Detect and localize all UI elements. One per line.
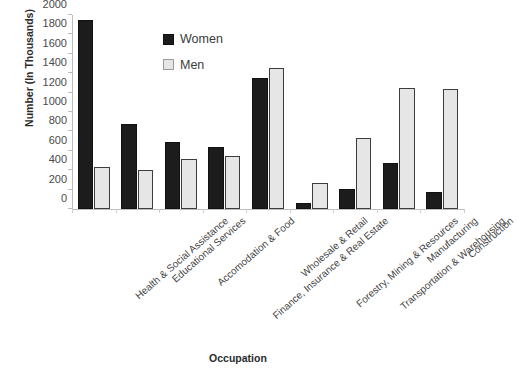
y-tick-label: 1600 <box>43 37 67 48</box>
y-tick-label: 1200 <box>43 76 67 87</box>
x-tick-mark <box>420 209 421 213</box>
x-tick-mark <box>246 209 247 213</box>
legend-swatch-men-icon <box>163 59 174 70</box>
y-tick-mark <box>68 130 72 131</box>
bar-men[interactable] <box>225 156 241 209</box>
x-tick-mark <box>464 209 465 213</box>
bar-men[interactable] <box>181 159 197 209</box>
x-tick-mark <box>290 209 291 213</box>
legend-item-women[interactable]: Women <box>163 33 223 46</box>
x-category-label: Health & Social Assistance <box>133 215 230 301</box>
bar-women[interactable] <box>339 189 355 209</box>
legend: Women Men <box>163 33 223 84</box>
x-axis-title: Occupation <box>0 352 476 364</box>
bar-men[interactable] <box>356 138 372 209</box>
y-tick-mark <box>68 150 72 151</box>
y-tick-mark <box>68 72 72 73</box>
x-tick-mark <box>333 209 334 213</box>
x-tick-mark <box>159 209 160 213</box>
y-tick-label: 2000 <box>43 0 67 10</box>
y-axis-title: Number (In Thousands) <box>23 0 35 153</box>
chart-title <box>20 0 460 5</box>
y-tick-mark <box>68 33 72 34</box>
bar-women[interactable] <box>208 147 224 209</box>
bar-women[interactable] <box>252 78 268 209</box>
y-tick-label: 1800 <box>43 18 67 29</box>
y-tick-mark <box>68 111 72 112</box>
bar-men[interactable] <box>312 183 328 209</box>
legend-item-men[interactable]: Men <box>163 59 223 72</box>
bar-women[interactable] <box>78 20 94 209</box>
x-tick-mark <box>72 209 73 213</box>
y-tick-mark <box>68 92 72 93</box>
bar-women[interactable] <box>426 192 442 209</box>
bar-women[interactable] <box>121 124 137 209</box>
plot-area: 0200400600800100012001400160018002000 <box>72 15 464 209</box>
legend-swatch-women-icon <box>163 34 174 45</box>
y-tick-label: 600 <box>49 134 67 145</box>
y-tick-label: 400 <box>49 154 67 165</box>
x-tick-mark <box>203 209 204 213</box>
y-tick-label: 1400 <box>43 57 67 68</box>
bar-women[interactable] <box>383 163 399 209</box>
y-tick-mark <box>68 169 72 170</box>
bar-men[interactable] <box>399 88 415 209</box>
y-tick-label: 800 <box>49 115 67 126</box>
x-category-label: Finance, Insurance & Real Estate <box>271 215 391 321</box>
bar-men[interactable] <box>269 68 285 209</box>
bar-men[interactable] <box>138 170 154 209</box>
bar-men[interactable] <box>443 89 459 209</box>
y-tick-mark <box>68 53 72 54</box>
x-tick-mark <box>116 209 117 213</box>
bar-women[interactable] <box>296 203 312 209</box>
bar-women[interactable] <box>165 142 181 209</box>
legend-label-men: Men <box>180 59 204 72</box>
y-tick-label: 200 <box>49 173 67 184</box>
legend-label-women: Women <box>180 33 223 46</box>
y-tick-label: 0 <box>61 193 67 204</box>
y-tick-label: 1000 <box>43 96 67 107</box>
y-tick-mark <box>68 14 72 15</box>
y-tick-mark <box>68 189 72 190</box>
x-axis-line <box>72 209 465 210</box>
x-tick-mark <box>377 209 378 213</box>
bar-men[interactable] <box>94 167 110 209</box>
